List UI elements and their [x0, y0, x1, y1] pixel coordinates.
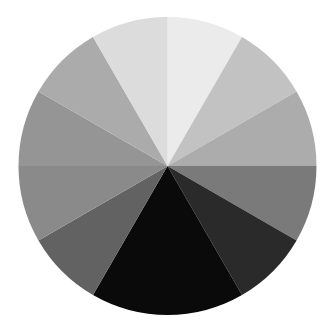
- pie-chart: [0, 0, 335, 331]
- pie-chart-canvas: [0, 0, 335, 331]
